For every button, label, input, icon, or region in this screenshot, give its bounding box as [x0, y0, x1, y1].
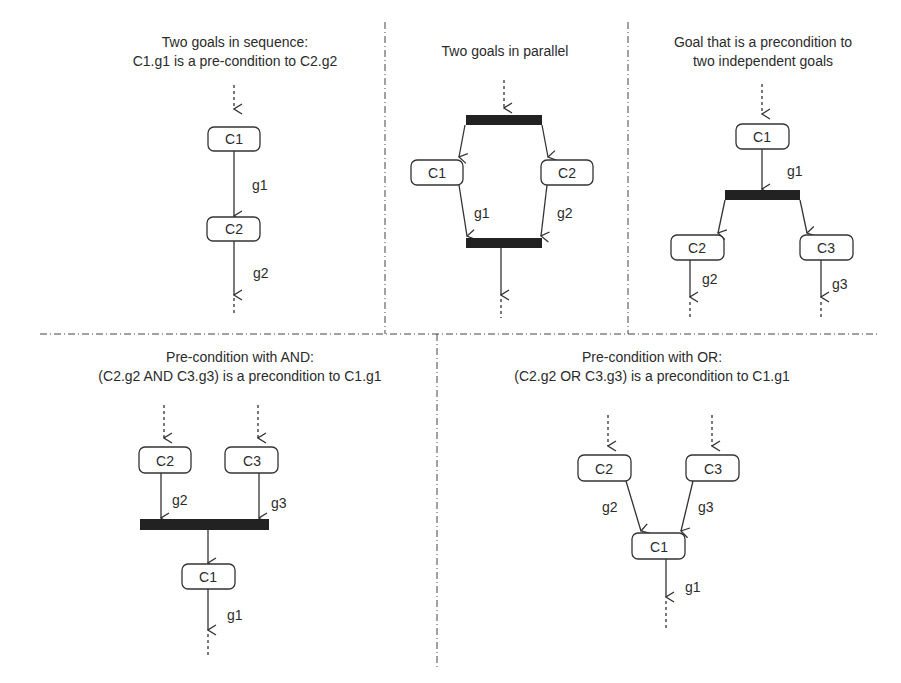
svg-text:C3: C3: [243, 453, 261, 469]
diagram-canvas: Two goals in sequence: C1.g1 is a pre-co…: [0, 0, 901, 683]
node-c1: C1: [182, 564, 235, 589]
join-bar: [466, 238, 542, 248]
edge-label-g3: g3: [698, 499, 714, 515]
node-c3: C3: [800, 235, 853, 260]
edge-label-g2: g2: [557, 205, 573, 221]
panel-title: Pre-condition with OR:: [582, 349, 722, 365]
node-c2: C2: [541, 160, 593, 185]
node-c1: C1: [736, 124, 789, 149]
panel-subtitle: C1.g1 is a pre-condition to C2.g2: [133, 53, 338, 69]
panel-title: Goal that is a precondition to: [674, 34, 852, 50]
node-c2: C2: [207, 217, 260, 241]
svg-text:C2: C2: [595, 461, 613, 477]
edge-g3-arrow: [681, 481, 693, 531]
svg-text:C2: C2: [156, 453, 174, 469]
panel-title: Two goals in sequence:: [162, 34, 308, 50]
node-c1: C1: [411, 160, 463, 185]
svg-text:C1: C1: [199, 569, 217, 585]
fork-bar: [466, 115, 542, 125]
node-c2: C2: [578, 455, 631, 481]
edge-g2-arrow: [541, 185, 547, 236]
svg-text:C2: C2: [225, 221, 243, 237]
svg-text:C1: C1: [650, 539, 668, 555]
svg-text:C3: C3: [704, 461, 722, 477]
panel-title: Two goals in parallel: [442, 43, 569, 59]
edge-label-g1: g1: [787, 163, 803, 179]
edge-label-g2: g2: [253, 265, 269, 281]
svg-text:C1: C1: [428, 165, 446, 181]
node-c3: C3: [225, 447, 278, 473]
join-bar: [140, 519, 269, 530]
edge-g1-arrow: [459, 185, 467, 236]
panel-title: Pre-condition with AND:: [166, 349, 314, 365]
edge-label-g3: g3: [271, 495, 287, 511]
fork-edge-right: [542, 125, 548, 157]
edge-label-g3: g3: [832, 276, 848, 292]
edge-label-g1: g1: [474, 205, 490, 221]
node-c1: C1: [208, 127, 260, 151]
svg-text:C1: C1: [225, 131, 243, 147]
panel-subtitle: (C2.g2 OR C3.g3) is a precondition to C1…: [514, 368, 790, 384]
fork-bar: [725, 190, 800, 200]
panel-and-join: Pre-condition with AND: (C2.g2 AND C3.g3…: [98, 349, 381, 655]
panel-or-join: Pre-condition with OR: (C2.g2 OR C3.g3) …: [514, 349, 790, 628]
panel-subtitle: two independent goals: [693, 53, 833, 69]
node-c3: C3: [686, 455, 739, 481]
node-c2: C2: [139, 447, 191, 473]
edge-label-g1: g1: [252, 177, 268, 193]
edge-label-g2: g2: [702, 271, 718, 287]
panel-sequence: Two goals in sequence: C1.g1 is a pre-co…: [133, 34, 338, 316]
panel-dividers: [40, 22, 880, 668]
svg-text:C2: C2: [688, 240, 706, 256]
edge-label-g2: g2: [172, 492, 188, 508]
edge-label-g1: g1: [685, 579, 701, 595]
svg-text:C1: C1: [753, 129, 771, 145]
node-c2: C2: [671, 235, 724, 260]
edge-label-g2: g2: [602, 499, 618, 515]
edge-g2-arrow: [626, 481, 641, 531]
panel-subtitle: (C2.g2 AND C3.g3) is a precondition to C…: [98, 368, 381, 384]
panel-parallel: Two goals in parallel C1 C2 g1 g2: [411, 43, 593, 318]
svg-text:C2: C2: [558, 165, 576, 181]
panel-fork: Goal that is a precondition to two indep…: [671, 34, 853, 318]
fork-edge-right: [800, 200, 807, 233]
svg-text:C3: C3: [817, 240, 835, 256]
edge-label-g1: g1: [227, 607, 243, 623]
node-c1: C1: [632, 533, 685, 559]
fork-edge-left: [459, 125, 465, 157]
fork-edge-left: [718, 200, 725, 233]
